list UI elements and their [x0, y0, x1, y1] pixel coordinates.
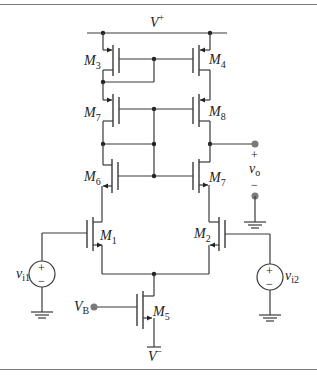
vi1-plus: + [38, 261, 45, 275]
vb-terminal [91, 304, 98, 311]
transistor-m3 [103, 33, 154, 82]
vi2-ground-icon [259, 315, 281, 321]
vplus-rail [87, 31, 227, 35]
vi2-plus: + [266, 264, 273, 278]
m7-label: MM7 [208, 170, 226, 188]
diagram-frame: V+ M3 M4 [0, 0, 317, 378]
m3-label: M3 [83, 53, 101, 71]
m1-label: M1 [99, 228, 117, 246]
vi2-label: vi2 [285, 268, 299, 285]
m5-label: M5 [152, 304, 170, 322]
transistor-m7 [152, 159, 210, 222]
output-ground-icon [244, 196, 266, 228]
transistor-m5 [96, 291, 161, 347]
m4-label: M4 [208, 52, 226, 70]
output-node [208, 142, 255, 162]
vi1-ground-icon [31, 312, 53, 318]
vb-label: VB [74, 299, 90, 316]
m8-label: M7 [83, 105, 101, 123]
vi1-minus: − [38, 274, 45, 288]
vo-plus-terminal [252, 141, 259, 148]
transistor-m4 [154, 33, 210, 88]
vplus-label: V+ [150, 12, 165, 30]
circuit-schematic: V+ M3 M4 [0, 0, 317, 378]
transistor-m6 [102, 159, 154, 222]
vo-minus-sign: − [251, 178, 258, 192]
cascode-bias-node [101, 107, 156, 176]
vminus-label: V− [148, 346, 163, 364]
vo-plus-sign: + [251, 148, 258, 162]
vi1-label: vi1 [16, 266, 30, 283]
m3-m4-gate-connection [101, 57, 156, 100]
m6-label: M6 [83, 169, 101, 187]
vi2-minus: − [266, 277, 273, 291]
m9-label: M8 [208, 104, 226, 122]
tail-node [102, 272, 209, 296]
transistor-m9 [154, 88, 210, 144]
vo-label: vo [249, 161, 260, 178]
transistor-m8 [103, 94, 154, 144]
m2-label: M2 [193, 226, 211, 244]
